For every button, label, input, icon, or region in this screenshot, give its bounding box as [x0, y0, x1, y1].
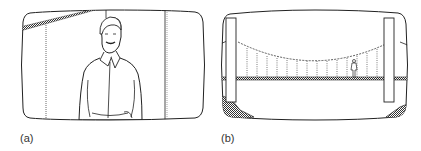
- tv-frame-bridge-illustration: [210, 0, 421, 151]
- walking-figure: [351, 60, 357, 78]
- panel-label: (b): [221, 132, 234, 144]
- tv-frame-man-illustration: [0, 0, 210, 151]
- panel-a: (a): [0, 0, 210, 151]
- screen-frame: [222, 10, 408, 120]
- panel-label: (a): [20, 132, 33, 144]
- panel-b: (b): [210, 0, 421, 151]
